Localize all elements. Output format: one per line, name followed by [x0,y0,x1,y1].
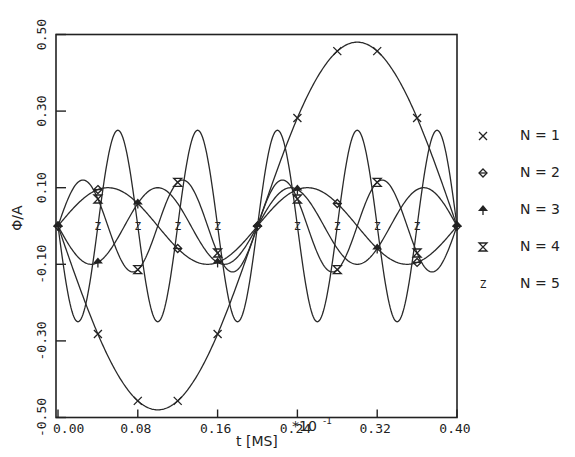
marker-n1 [134,397,142,405]
x-tick-label: 0.40 [439,421,470,436]
marker-n5: Z [174,220,181,233]
marker-n4 [373,178,381,186]
legend: N = 1N = 2N = 3N = 4ZN = 5 [478,127,560,291]
y-tick-label: 0.30 [34,95,49,126]
x-axis-ticks: 0.000.080.160.240.320.40 [53,410,471,436]
y-axis-ticks: -0.50-0.30-0.100.100.300.50 [34,19,66,437]
chart-canvas: 0.000.080.160.240.320.40 -0.50-0.30-0.10… [0,0,575,457]
y-tick-label: 0.50 [34,19,49,50]
legend-item-n1: N = 1 [479,127,560,143]
marker-n1 [174,397,182,405]
svg-text:Z: Z [374,220,381,233]
marker-n1 [413,114,421,122]
x-multiplier-exponent: -1 [323,416,332,426]
x-multiplier-text: *10 [292,418,317,434]
svg-text:Z: Z [174,220,181,233]
legend-symbol-icon [479,169,487,177]
svg-text:Z: Z [134,220,141,233]
y-axis-label: Φ/A [9,205,25,231]
marker-n1 [94,330,102,338]
legend-symbol-icon [479,132,487,140]
svg-text:Z: Z [414,220,421,233]
marker-n5: Z [95,220,102,233]
svg-text:Z: Z [480,278,487,291]
marker-n1 [333,47,341,55]
svg-text:Z: Z [294,220,301,233]
marker-n4 [333,266,341,274]
marker-n4 [214,249,222,257]
legend-label: N = 1 [520,127,560,143]
legend-label: N = 2 [520,164,560,180]
legend-item-n4: N = 4 [479,238,560,254]
marker-n5: Z [414,220,421,233]
marker-n1 [373,47,381,55]
legend-symbol-icon [479,243,487,251]
legend-item-n2: N = 2 [479,164,560,180]
x-tick-label: 0.32 [360,421,391,436]
x-tick-label: 0.08 [120,421,151,436]
marker-n4 [293,195,301,203]
marker-n4 [174,178,182,186]
legend-label: N = 3 [520,201,560,217]
marker-n3 [93,257,103,267]
svg-text:Z: Z [214,220,221,233]
legend-label: N = 4 [520,238,560,254]
legend-item-n3: N = 3 [478,201,560,217]
svg-text:Z: Z [334,220,341,233]
y-tick-label: -0.30 [34,321,49,360]
x-tick-label: 0.16 [200,421,231,436]
y-tick-label: 0.10 [34,172,49,203]
marker-n5: Z [214,220,221,233]
legend-symbol-icon [478,205,488,215]
y-tick-label: -0.50 [34,398,49,437]
marker-n4 [134,266,142,274]
legend-symbol-icon: Z [480,278,487,291]
y-tick-label: -0.10 [34,245,49,284]
x-axis-label: t [MS] [236,433,278,449]
marker-n3 [213,257,223,267]
marker-n5: Z [294,220,301,233]
data-markers: ZZZZZZZZ [53,47,462,405]
marker-n3 [292,185,302,195]
svg-text:Z: Z [95,220,102,233]
legend-label: N = 5 [520,275,560,291]
legend-item-n5: ZN = 5 [480,275,560,291]
marker-n1 [214,330,222,338]
marker-n4 [94,195,102,203]
marker-n5: Z [334,220,341,233]
x-axis-multiplier: *10 -1 [292,416,332,434]
marker-n1 [293,114,301,122]
marker-n5: Z [134,220,141,233]
x-tick-label: 0.00 [53,421,84,436]
marker-n4 [413,249,421,257]
marker-n5: Z [374,220,381,233]
